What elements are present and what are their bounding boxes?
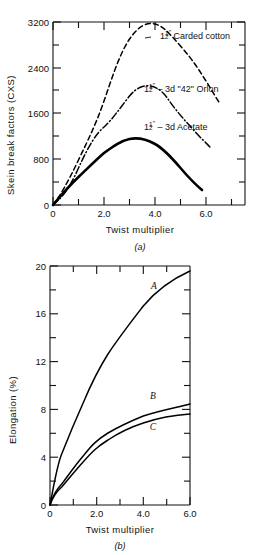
panel-a-xtick-2: 2.0 — [97, 208, 110, 219]
panel-a-annotation-carded-cotton: 112" Carded cotton — [145, 29, 230, 41]
panel-a-xtick-4: 4.0 — [148, 208, 161, 219]
panel-a-y-axis-label-text: Skein break factors (CXS) — [5, 75, 16, 195]
svg-text:112" – 3d "42" Orlon: 112" – 3d "42" Orlon — [144, 82, 218, 94]
panel-b-ytick-4: 4 — [41, 452, 46, 463]
panel-a-series-acetate — [53, 138, 202, 205]
panel-b-x-axis-label: Twist multiplier — [86, 524, 155, 535]
panel-b-curve-label-a: A — [150, 281, 157, 291]
figure-container: Skein break factors (CXS) — [0, 0, 253, 555]
panel-b-xtick-0: 0 — [47, 508, 52, 519]
panel-b-x-ticklabels: 0 2.0 4.0 6.0 — [47, 508, 196, 519]
panel-a-y-ticks — [53, 22, 245, 205]
panel-b-axes — [50, 266, 190, 505]
label-a1-rest: – 3d "42" Orlon — [155, 84, 218, 94]
panel-b-y-ticklabels: 20 16 12 8 4 0 — [35, 261, 46, 511]
chart-panel-b: Elongation (%) — [0, 260, 253, 555]
panel-b-series-b — [50, 404, 190, 505]
panel-b-series-a — [50, 271, 190, 505]
panel-a-annotation-orlon: 112" – 3d "42" Orlon — [144, 82, 218, 94]
panel-b-series-c — [50, 414, 190, 505]
label-a0-rest: Carded cotton — [171, 31, 230, 41]
panel-b-y-axis-label: Elongation (%) — [7, 376, 18, 444]
panel-b-x-ticks — [50, 266, 190, 505]
panel-a-ytick-0: 0 — [44, 200, 49, 211]
panel-b-curve-label-c: C — [150, 422, 157, 432]
panel-a-label: (a) — [135, 242, 146, 252]
panel-a-y-ticklabels: 3200 2400 1600 800 0 — [28, 17, 49, 211]
panel-b-xtick-6: 6.0 — [183, 508, 196, 519]
panel-a-xtick-6: 6.0 — [199, 208, 212, 219]
panel-a-y-axis-label: Skein break factors (CXS) — [5, 75, 16, 195]
svg-text:112" Carded cotton: 112" Carded cotton — [160, 29, 230, 41]
panel-a-ytick-800: 800 — [33, 154, 49, 165]
panel-b-ytick-16: 16 — [35, 308, 46, 319]
panel-b-ytick-0: 0 — [41, 500, 46, 511]
panel-a-series-orlon — [53, 86, 210, 205]
panel-b-xtick-4: 4.0 — [137, 508, 150, 519]
panel-a-axes — [53, 22, 245, 205]
panel-a-ytick-1600: 1600 — [28, 108, 49, 119]
panel-b-y-ticks — [50, 266, 190, 505]
panel-a-annotation-acetate: 112" – 3d Acetate — [144, 120, 208, 132]
panel-b-ytick-12: 12 — [35, 356, 46, 367]
panel-b-xtick-2: 2.0 — [90, 508, 103, 519]
label-a2-rest: – 3d Acetate — [155, 122, 208, 132]
panel-b-ytick-8: 8 — [41, 404, 46, 415]
svg-text:112" – 3d Acetate: 112" – 3d Acetate — [144, 120, 208, 132]
panel-b-ytick-20: 20 — [35, 261, 46, 272]
panel-a-ytick-3200: 3200 — [28, 17, 49, 28]
panel-b-curve-label-b: B — [150, 391, 156, 401]
panel-b-label: (b) — [115, 541, 126, 551]
chart-panel-a: Skein break factors (CXS) — [0, 0, 253, 260]
panel-a-x-axis-label: Twist multiplier — [106, 224, 175, 235]
panel-a-xtick-0: 0 — [50, 208, 55, 219]
panel-a-x-ticklabels: 0 2.0 4.0 6.0 — [50, 208, 212, 219]
panel-a-ytick-2400: 2400 — [28, 63, 49, 74]
